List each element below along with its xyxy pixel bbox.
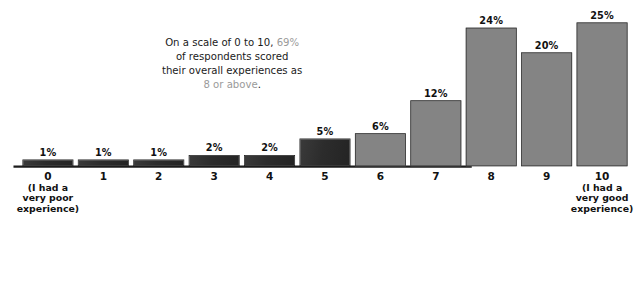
bar-10 [577, 22, 628, 166]
bar-7 [410, 100, 461, 166]
bar-value-1: 1% [78, 147, 129, 158]
bar-value-10: 25% [577, 10, 628, 21]
annotation-highlight-threshold: 8 or above [203, 79, 257, 91]
bar-value-7: 12% [410, 88, 461, 99]
annotation-highlight-percent: 69% [277, 36, 299, 48]
x-tick-7: 7 [410, 170, 461, 182]
annotation-line-1: On a scale of 0 to 10, 69% [147, 35, 318, 49]
annotation-line-1-text: On a scale of 0 to 10, [165, 36, 277, 48]
bar-4 [244, 155, 295, 166]
bar-value-0: 1% [22, 147, 73, 158]
bar-1 [78, 160, 129, 167]
bar-value-6: 6% [355, 121, 406, 132]
axis-caption-right: (I had a very good experience) [560, 183, 644, 214]
annotation-line-3: their overall experiences as [147, 64, 318, 78]
bar-0 [22, 160, 73, 167]
bar-value-3: 2% [189, 142, 240, 153]
bar-value-2: 1% [133, 147, 184, 158]
x-tick-1: 1 [78, 170, 129, 182]
annotation-line-2: of respondents scored [147, 49, 318, 63]
axis-caption-right-line-3: experience) [560, 204, 644, 214]
bar-chart: 1% 1% 1% 2% 2% 5% 6% 12% 24% 20% 25% 0 1… [0, 0, 644, 306]
x-tick-2: 2 [133, 170, 184, 182]
x-tick-9: 9 [521, 170, 572, 182]
bar-value-8: 24% [466, 15, 517, 26]
bar-value-4: 2% [244, 142, 295, 153]
axis-caption-left: (I had a very poor experience) [6, 183, 90, 214]
x-tick-3: 3 [189, 170, 240, 182]
axis-caption-left-line-3: experience) [6, 204, 90, 214]
bar-8 [466, 28, 517, 167]
bar-9 [521, 52, 572, 166]
x-tick-6: 6 [355, 170, 406, 182]
annotation-line-4: 8 or above. [147, 78, 318, 92]
bar-3 [189, 155, 240, 166]
x-tick-10: 10 [577, 170, 628, 182]
bar-5 [300, 139, 351, 167]
bar-2 [133, 160, 184, 167]
bar-value-9: 20% [521, 40, 572, 51]
x-tick-0: 0 [22, 170, 73, 182]
chart-annotation: On a scale of 0 to 10, 69% of respondent… [147, 35, 318, 92]
bar-6 [355, 133, 406, 166]
bar-value-5: 5% [300, 126, 351, 137]
x-tick-8: 8 [466, 170, 517, 182]
annotation-line-4-period: . [258, 79, 261, 91]
x-tick-4: 4 [244, 170, 295, 182]
x-tick-5: 5 [300, 170, 351, 182]
